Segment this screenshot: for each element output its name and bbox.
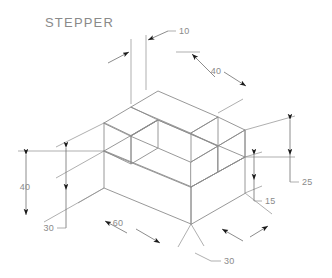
dimension-30-right-group: 30 (191, 193, 272, 266)
dimension-60-group: 60 (78, 188, 191, 247)
technical-drawing-canvas: 10 40 25 15 (0, 0, 332, 278)
dimension-15-group: 15 (245, 152, 276, 206)
dim-30r-leader (195, 253, 211, 261)
dim-40-arrow-b (224, 72, 246, 86)
drawing-title: STEPPER (45, 15, 114, 30)
dim-30-right-label: 30 (224, 256, 235, 266)
dim-10-arrow-left (108, 52, 129, 63)
dim-30r-arrow-a (222, 229, 243, 241)
solid-object-stepper (104, 91, 245, 224)
dim-30r-ext-start (191, 224, 204, 246)
dim-25-label: 25 (302, 177, 313, 187)
dim-15-ext-top (245, 152, 262, 157)
dim-25-ext-top (245, 116, 295, 130)
dimension-40-left-group: 40 (18, 151, 104, 222)
dim-15-ext-bottom (245, 186, 262, 193)
dim-60-label: 60 (113, 218, 124, 228)
isometric-drawing-svg: 10 40 25 15 (0, 0, 332, 278)
channel-floor-face (104, 120, 245, 187)
dim-40-left-label: 40 (20, 182, 31, 192)
dim-10-arrow-right (148, 31, 168, 40)
dim-30l-ext-top (56, 123, 104, 147)
dim-40-ext-end (218, 99, 243, 113)
dimension-40-top-group: 40 (176, 52, 246, 113)
dim-60-ext-end (178, 224, 191, 247)
dimension-30-left-group: 30 (43, 123, 104, 233)
dim-30l-ext-bottom (56, 151, 104, 178)
dim-30-left-label: 30 (43, 223, 54, 233)
dim-15-label: 15 (265, 196, 276, 206)
left-block-top-face (104, 107, 158, 136)
dim-30r-arrow-b (250, 226, 268, 237)
base-front-left-face (104, 151, 191, 224)
dimension-25-group: 25 (245, 116, 313, 187)
dim-40-top-label: 40 (211, 66, 222, 76)
dim-60-arrow-b (136, 229, 160, 243)
dim-10-label: 10 (179, 26, 190, 36)
right-block-inner-face (191, 146, 218, 187)
dim-40l-ext-bottom (44, 188, 104, 222)
dimension-10-group: 10 (108, 26, 190, 104)
